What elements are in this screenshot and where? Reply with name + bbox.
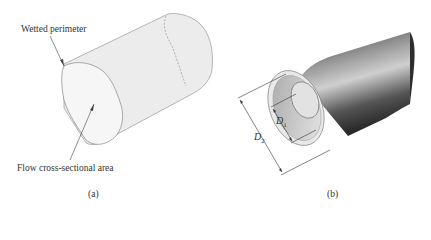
d1-subscript: 1 [283, 121, 287, 129]
wetted-perimeter-label: Wetted perimeter [21, 24, 86, 34]
d2-label: D2 [254, 131, 265, 145]
caption-b: (b) [327, 189, 338, 199]
d1-label: D1 [276, 115, 287, 129]
caption-a: (a) [88, 189, 99, 199]
d2-subscript: 2 [261, 137, 265, 145]
flow-area-label: Flow cross-sectional area [17, 163, 114, 173]
annular-pipe [257, 32, 414, 154]
